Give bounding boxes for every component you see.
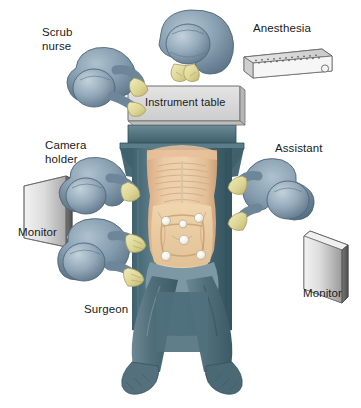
- label-monitor-left: Monitor: [18, 226, 57, 240]
- or-layout-diagram: Scrub nurse Anesthesia Instrument table …: [0, 0, 361, 408]
- label-anesthesia: Anesthesia: [253, 22, 311, 36]
- label-instrument-table: Instrument table: [145, 96, 225, 110]
- label-assistant: Assistant: [275, 142, 323, 156]
- label-camera-holder: Camera holder: [45, 139, 87, 166]
- or-illustration: [0, 0, 361, 408]
- label-monitor-right: Monitor: [303, 287, 342, 301]
- label-surgeon: Surgeon: [84, 303, 128, 317]
- label-scrub-nurse: Scrub nurse: [42, 26, 73, 53]
